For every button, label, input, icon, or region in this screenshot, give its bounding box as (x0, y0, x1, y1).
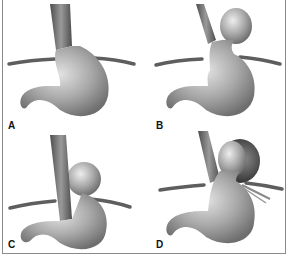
panel-c: C (0, 127, 146, 254)
panel-a: A (0, 0, 146, 127)
panel-label-c: C (8, 239, 15, 250)
stomach-hernia-with-sac-illustration (146, 127, 292, 254)
panel-b: B (146, 0, 292, 127)
stomach-paraesophageal-hernia-illustration (0, 127, 146, 254)
panel-label-d: D (156, 239, 163, 250)
stomach-sliding-hernia-illustration (146, 0, 292, 127)
stomach-normal-illustration (0, 0, 146, 127)
panel-d: D (146, 127, 292, 254)
